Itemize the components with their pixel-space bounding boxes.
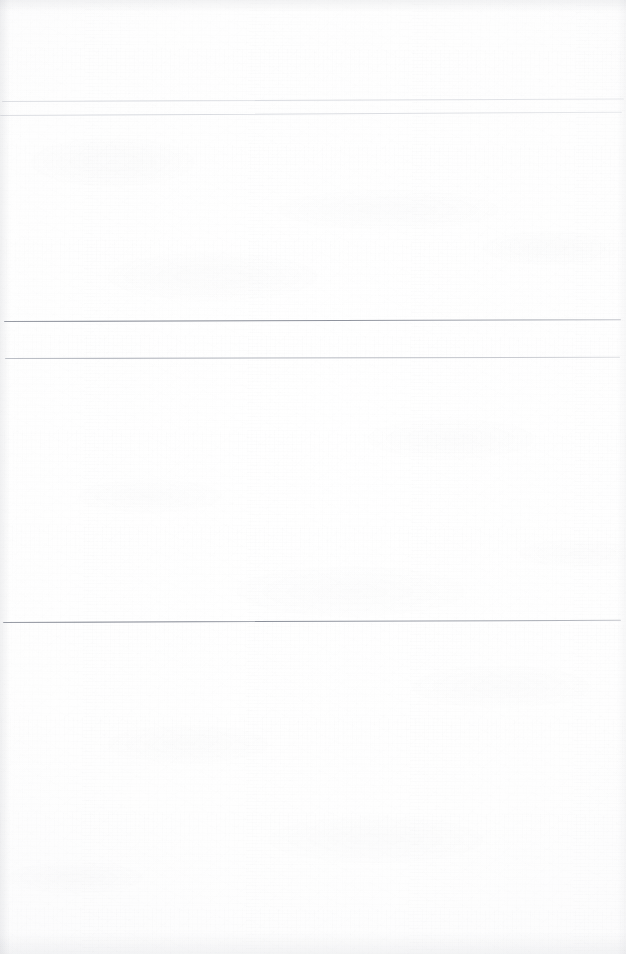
region-upper-body	[0, 115, 626, 321]
region-mid-body	[0, 358, 626, 622]
region-band	[0, 321, 626, 358]
region-header	[0, 0, 626, 101]
region-lower-body	[0, 622, 626, 954]
scanned-page	[0, 0, 626, 954]
